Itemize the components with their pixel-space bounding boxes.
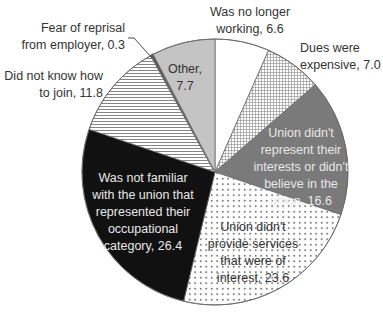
slice-label-was-not-familiar-with-the-union-that-represented-their-occupational-category: Was not familiarwith the union thatrepre…: [91, 171, 194, 253]
slice-label-was-no-longer-working: Was no longerworking, 6.6: [210, 5, 290, 36]
leader-line: [128, 38, 152, 58]
pie-chart: Was no longerworking, 6.6Dues wereexpens…: [0, 0, 383, 321]
slice-label-did-not-know-how-to-join: Did not know howto join, 11.8: [4, 69, 104, 100]
slice-label-fear-of-reprisal-from-employer: Fear of reprisalfrom employer, 0.3: [21, 21, 125, 52]
slice-label-dues-were-expensive: Dues wereexpensive, 7.0: [300, 41, 381, 72]
